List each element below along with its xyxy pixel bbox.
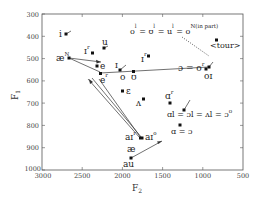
x-tick-2000: 2000 bbox=[114, 172, 131, 180]
label-oi: oɪ bbox=[204, 71, 212, 81]
x-axis-label: F2 bbox=[132, 183, 142, 194]
label-ai2: aɪo bbox=[145, 130, 157, 142]
label-i: i bbox=[59, 29, 62, 39]
x-tick-1500: 1500 bbox=[154, 172, 171, 180]
point-wedge bbox=[142, 98, 145, 101]
vowel-formant-chart: 300 400 500 600 700 800 900 1000 3000 25… bbox=[0, 0, 255, 200]
x-tick-labels: 3000 2500 2000 1500 1000 500 bbox=[35, 172, 249, 180]
y-axis-label: F1 bbox=[10, 90, 21, 100]
label-top-annotation: ol = ʊl = ul = oN(in part) bbox=[130, 23, 218, 36]
x-tick-3000: 3000 bbox=[35, 172, 52, 180]
label-a-eq-o: ɑ = ɔ bbox=[171, 127, 193, 136]
label-or-eq: ɔ = or bbox=[178, 61, 205, 73]
y-tick-400: 400 bbox=[27, 33, 39, 41]
label-ir-left: ɪr bbox=[84, 44, 90, 56]
line-ai-1 bbox=[88, 79, 140, 138]
label-al-eq: ɑl = ɔl = ʌl = ɔʊ bbox=[167, 108, 233, 119]
label-eps: ɛ bbox=[126, 86, 131, 96]
y-tick-500: 500 bbox=[27, 55, 39, 63]
label-aeN: æN bbox=[56, 51, 69, 63]
point-i bbox=[65, 33, 68, 36]
point-ir-left bbox=[91, 52, 94, 55]
point-e bbox=[96, 65, 99, 68]
y-tick-700: 700 bbox=[27, 100, 39, 108]
label-U: ʊ bbox=[131, 72, 137, 82]
y-tick-900: 900 bbox=[27, 144, 39, 152]
y-tick-labels: 300 400 500 600 700 800 900 1000 bbox=[24, 11, 41, 174]
arrow-au bbox=[131, 141, 162, 158]
label-I: ɪ bbox=[115, 60, 118, 70]
label-o: o bbox=[120, 72, 125, 82]
point-ar bbox=[169, 102, 172, 105]
y-axis bbox=[42, 14, 243, 170]
x-tick-500: 500 bbox=[237, 172, 249, 180]
dotted-line-to-or bbox=[182, 37, 209, 56]
point-ai bbox=[139, 137, 144, 140]
y-tick-600: 600 bbox=[27, 77, 39, 85]
point-ir-right bbox=[147, 55, 150, 58]
label-u: u bbox=[102, 37, 108, 47]
x-tick-2500: 2500 bbox=[74, 172, 91, 180]
data-points bbox=[65, 33, 219, 160]
label-ar: ɑr bbox=[165, 89, 174, 101]
label-ae: æ bbox=[127, 144, 135, 154]
label-tour: <tour> bbox=[210, 41, 240, 50]
label-ai: aɪr bbox=[125, 130, 136, 142]
point-eps bbox=[121, 90, 124, 93]
x-tick-1000: 1000 bbox=[195, 172, 212, 180]
label-au: au bbox=[123, 159, 134, 169]
point-or bbox=[208, 66, 211, 69]
label-ir-right: ɪr bbox=[141, 51, 147, 64]
plot-frame bbox=[42, 14, 243, 170]
label-wedge: ʌ bbox=[135, 98, 142, 108]
y-tick-300: 300 bbox=[27, 11, 39, 19]
x-axis bbox=[82, 14, 203, 170]
y-tick-800: 800 bbox=[27, 122, 39, 130]
point-labels: i ɪr u æN e er ɪ o ʊ ɛ ʌ ɪr ɔ = or oɪ <t… bbox=[56, 23, 240, 169]
label-e: e bbox=[100, 61, 105, 71]
